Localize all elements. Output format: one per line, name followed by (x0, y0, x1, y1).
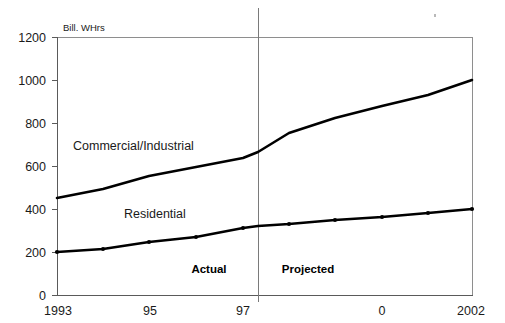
x-tick-label-1993: 1993 (44, 304, 72, 318)
residential-marker (101, 247, 105, 251)
line-chart-canvas: 0 200 400 600 800 1000 1200 Bill. WHrs 1… (0, 0, 505, 323)
x-tick-label-97: 97 (236, 304, 250, 318)
y-tick-label-0: 0 (39, 289, 46, 303)
x-tick-label-95: 95 (143, 304, 157, 318)
residential-marker (194, 235, 198, 239)
annotation-actual: Actual (191, 263, 226, 275)
residential-marker (241, 226, 245, 230)
y-axis-ticks (52, 38, 58, 296)
series-residential (55, 207, 474, 254)
residential-marker (470, 207, 474, 211)
y-axis-unit-label: Bill. WHrs (63, 22, 105, 33)
plot-frame (58, 38, 473, 296)
scan-artifact (434, 14, 436, 17)
y-tick-label-800: 800 (25, 117, 46, 131)
x-tick-label-0: 0 (379, 304, 386, 318)
residential-marker (55, 250, 59, 254)
y-tick-label-1000: 1000 (18, 74, 46, 88)
residential-marker (147, 240, 151, 244)
residential-line (57, 209, 472, 252)
y-tick-label-600: 600 (25, 160, 46, 174)
residential-marker (426, 211, 430, 215)
series-label-residential: Residential (124, 207, 186, 221)
y-axis-tick-labels: 0 200 400 600 800 1000 1200 (18, 31, 46, 303)
y-tick-label-200: 200 (25, 246, 46, 260)
residential-marker (287, 222, 291, 226)
y-tick-label-400: 400 (25, 203, 46, 217)
series-label-commercial-industrial: Commercial/Industrial (73, 139, 194, 153)
x-axis-tick-labels: 1993 95 97 0 2002 (44, 304, 485, 318)
chart-container: 0 200 400 600 800 1000 1200 Bill. WHrs 1… (0, 0, 505, 323)
residential-marker (380, 215, 384, 219)
residential-marker (333, 218, 337, 222)
y-tick-label-1200: 1200 (18, 31, 46, 45)
annotation-projected: Projected (282, 263, 334, 275)
x-tick-label-2002: 2002 (457, 304, 485, 318)
